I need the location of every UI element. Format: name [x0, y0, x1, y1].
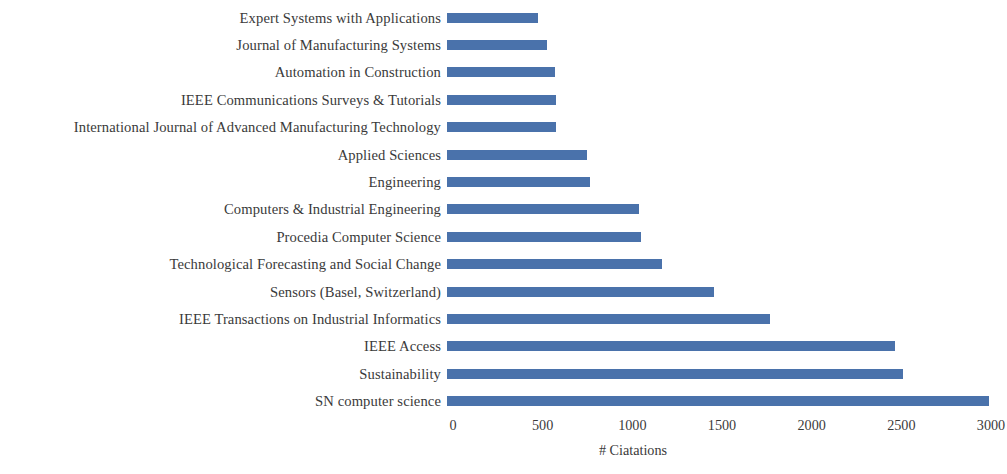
category-label: SN computer science: [0, 393, 447, 409]
category-label: Journal of Manufacturing Systems: [0, 37, 447, 53]
bar-track: [447, 168, 1007, 195]
category-label: Automation in Construction: [0, 64, 447, 80]
category-label: Computers & Industrial Engineering: [0, 201, 447, 217]
bar: [447, 95, 556, 105]
bar-track: [447, 4, 1007, 31]
chart-bar-row: IEEE Communications Surveys & Tutorials: [0, 86, 1007, 113]
x-axis-tick-label: 1000: [618, 416, 646, 434]
x-axis-tick-label: 1500: [708, 416, 736, 434]
chart-bar-row: Computers & Industrial Engineering: [0, 196, 1007, 223]
x-axis-tick-label: 3000: [977, 416, 1005, 434]
bar-track: [447, 31, 1007, 58]
category-label: Expert Systems with Applications: [0, 10, 447, 26]
category-label: Sensors (Basel, Switzerland): [0, 284, 447, 300]
chart-bar-row: Automation in Construction: [0, 59, 1007, 86]
bar: [447, 287, 714, 297]
bar-track: [447, 333, 1007, 360]
chart-plot-area: Expert Systems with ApplicationsJournal …: [0, 4, 1007, 415]
category-label: Procedia Computer Science: [0, 229, 447, 245]
bar: [447, 204, 639, 214]
category-label: Sustainability: [0, 366, 447, 382]
bar-track: [447, 141, 1007, 168]
chart-bar-row: Applied Sciences: [0, 141, 1007, 168]
x-axis-tick-label: 500: [532, 416, 553, 434]
bar: [447, 67, 555, 77]
category-label: International Journal of Advanced Manufa…: [0, 119, 447, 135]
bar: [447, 341, 895, 351]
bar-track: [447, 114, 1007, 141]
chart-bar-row: SN computer science: [0, 387, 1007, 414]
bar: [447, 369, 903, 379]
bar: [447, 177, 590, 187]
bar-track: [447, 59, 1007, 86]
bar-track: [447, 278, 1007, 305]
bar: [447, 150, 587, 160]
bar: [447, 314, 770, 324]
bar: [447, 232, 641, 242]
bar-track: [447, 387, 1007, 414]
chart-bar-row: IEEE Transactions on Industrial Informat…: [0, 305, 1007, 332]
category-label: IEEE Transactions on Industrial Informat…: [0, 311, 447, 327]
x-axis-tick-label: 0: [449, 416, 456, 434]
citations-bar-chart: Expert Systems with ApplicationsJournal …: [0, 0, 1007, 474]
category-label: Technological Forecasting and Social Cha…: [0, 256, 447, 272]
category-label: IEEE Communications Surveys & Tutorials: [0, 92, 447, 108]
chart-bar-row: Procedia Computer Science: [0, 223, 1007, 250]
chart-bar-row: IEEE Access: [0, 333, 1007, 360]
chart-bar-row: International Journal of Advanced Manufa…: [0, 114, 1007, 141]
chart-bar-row: Technological Forecasting and Social Cha…: [0, 251, 1007, 278]
x-axis-title: # Ciatations: [453, 441, 813, 459]
category-label: Applied Sciences: [0, 147, 447, 163]
chart-bar-row: Sustainability: [0, 360, 1007, 387]
x-axis-tick-label: 2000: [797, 416, 825, 434]
bar: [447, 40, 547, 50]
bar-track: [447, 305, 1007, 332]
bar: [447, 259, 662, 269]
bar-track: [447, 196, 1007, 223]
bar: [447, 122, 556, 132]
bar: [447, 13, 538, 23]
chart-bar-row: Journal of Manufacturing Systems: [0, 31, 1007, 58]
bar-track: [447, 251, 1007, 278]
x-axis-tick-label: 2500: [887, 416, 915, 434]
bar-track: [447, 360, 1007, 387]
chart-bar-row: Sensors (Basel, Switzerland): [0, 278, 1007, 305]
chart-bar-row: Engineering: [0, 168, 1007, 195]
x-axis: 050010001500200025003000: [453, 416, 991, 442]
chart-bar-row: Expert Systems with Applications: [0, 4, 1007, 31]
bar: [447, 396, 989, 406]
bar-track: [447, 86, 1007, 113]
bar-track: [447, 223, 1007, 250]
category-label: Engineering: [0, 174, 447, 190]
category-label: IEEE Access: [0, 338, 447, 354]
